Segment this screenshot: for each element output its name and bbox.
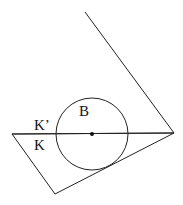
label-k-prime: K’ bbox=[34, 117, 50, 133]
diagram-svg: B K’ K bbox=[0, 0, 183, 205]
label-b: B bbox=[79, 103, 89, 119]
upper-triangle-edges bbox=[12, 12, 174, 134]
diagram-canvas: B K’ K bbox=[0, 0, 183, 205]
center-point bbox=[90, 132, 94, 136]
label-k: K bbox=[34, 137, 45, 153]
